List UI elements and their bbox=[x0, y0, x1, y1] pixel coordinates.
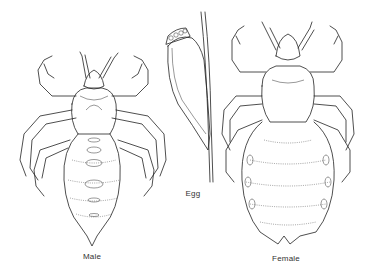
female-label: Female bbox=[272, 254, 300, 263]
illustration-canvas bbox=[0, 0, 378, 278]
egg-nit-drawing bbox=[166, 12, 213, 182]
male-label: Male bbox=[83, 252, 101, 261]
louse-illustration-figure: Male Egg Female bbox=[0, 0, 378, 278]
egg-label: Egg bbox=[186, 189, 201, 198]
male-louse-drawing bbox=[20, 52, 166, 246]
female-louse-drawing bbox=[222, 22, 354, 244]
